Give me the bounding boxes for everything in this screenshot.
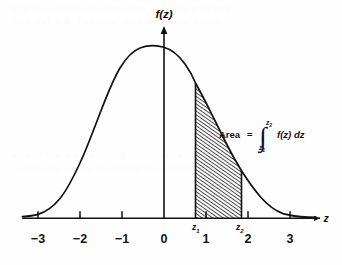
area-annotation: Area = ∫ z2 z1 f(z) dz (219, 119, 305, 154)
x-tick-label-2: 2 (245, 232, 252, 246)
x-tick-label--1: −1 (115, 232, 129, 246)
gaussian-density-curve (23, 46, 317, 218)
z2-boundary-label: z2 (235, 222, 244, 234)
x-axis-tick-labels: −3 −2 −1 0 1 2 3 (31, 232, 294, 246)
equals-sign: = (247, 129, 253, 140)
x-tick-label-0: 0 (161, 232, 168, 246)
y-axis-label: f(z) (155, 8, 172, 20)
y-axis (161, 26, 168, 218)
shaded-area-region (190, 75, 250, 225)
x-tick-label-3: 3 (287, 232, 294, 246)
figure-canvas: f(z) is a continuous function with the p… (0, 0, 342, 265)
x-tick-label--2: −2 (73, 232, 87, 246)
x-axis-label: z (322, 212, 329, 224)
x-tick-label-1: 1 (203, 232, 210, 246)
distribution-plot: −3 −2 −1 0 1 2 3 z1 z2 z f(z) Area = ∫ z… (0, 0, 342, 265)
y-axis-arrowhead (161, 26, 168, 34)
area-word-label: Area (219, 129, 241, 140)
integrand-expression: f(z) dz (277, 129, 305, 140)
x-tick-label--3: −3 (31, 232, 45, 246)
x-axis-arrowhead (314, 216, 320, 221)
x-axis (22, 216, 320, 221)
z1-boundary-label: z1 (191, 222, 200, 234)
region-boundary-labels: z1 z2 (191, 222, 244, 234)
